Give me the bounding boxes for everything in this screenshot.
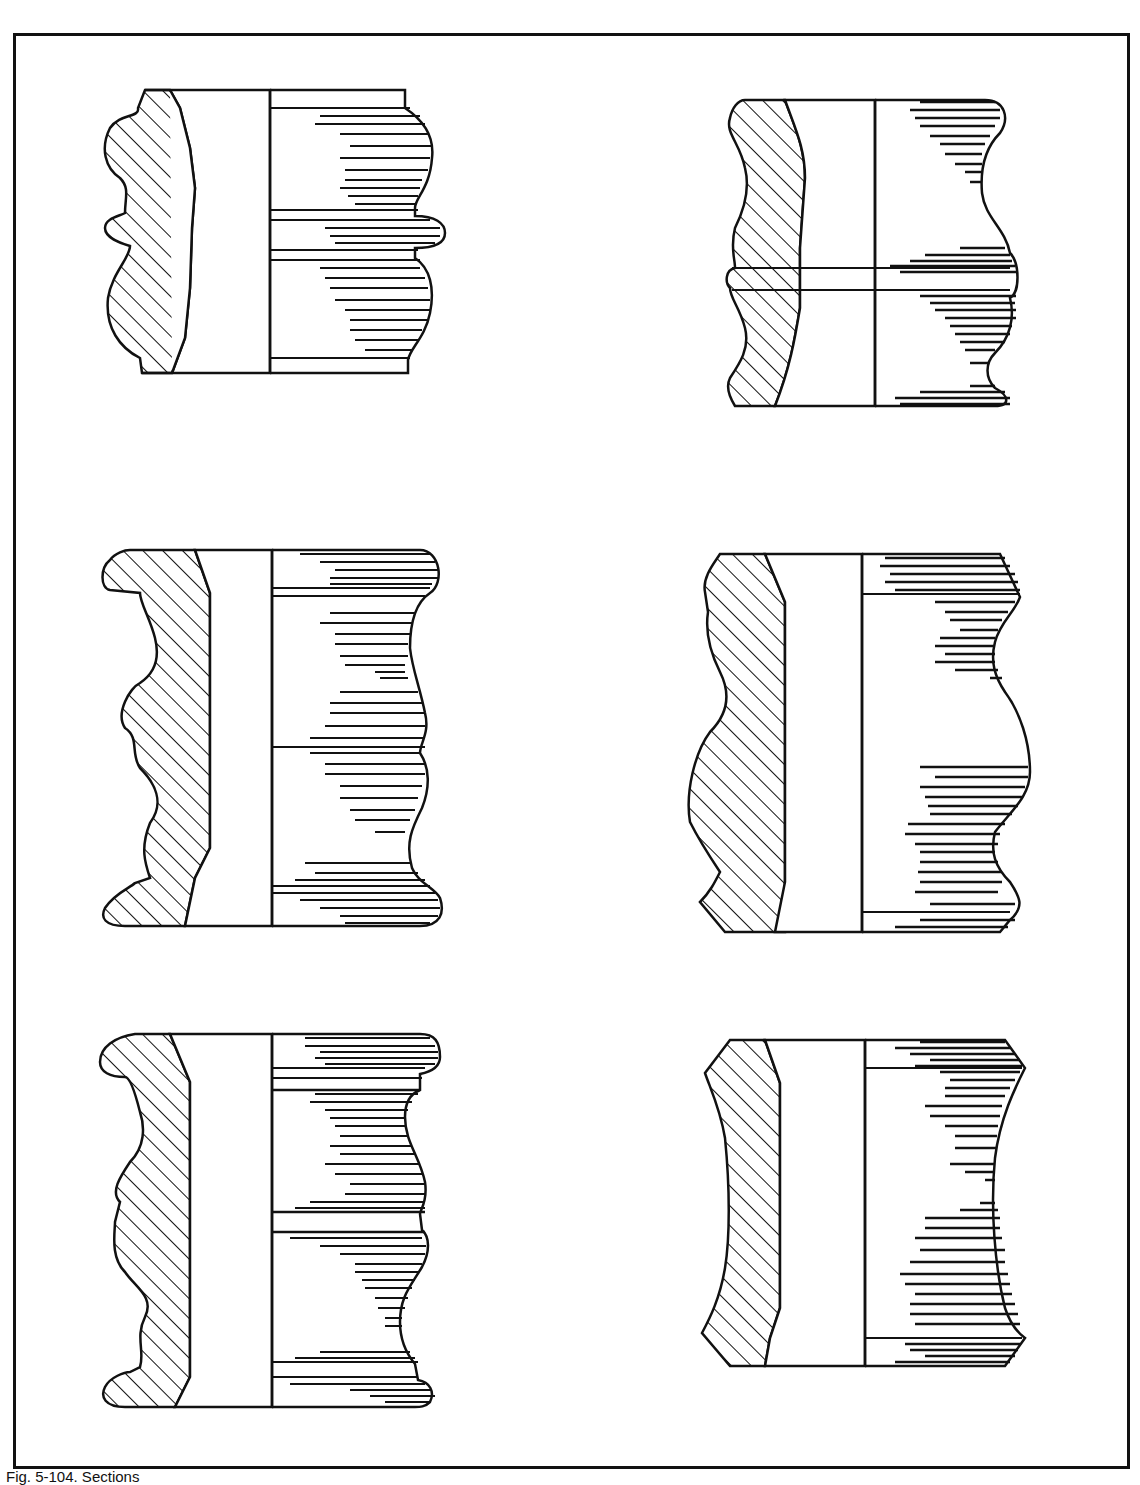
- section-drawing-top-right: [720, 98, 1030, 418]
- turned-section-2-icon: [720, 98, 1030, 418]
- turned-section-6-icon: [700, 1038, 1040, 1373]
- turned-section-5-icon: [100, 1032, 450, 1417]
- turned-section-3-icon: [100, 548, 450, 933]
- section-drawing-top-left: [100, 88, 450, 388]
- section-drawing-bottom-right: [700, 1038, 1040, 1373]
- section-drawing-middle-left: [100, 548, 450, 933]
- figure-caption: Fig. 5-104. Sections: [6, 1469, 139, 1485]
- section-drawing-bottom-left: [100, 1032, 450, 1417]
- turned-section-4-icon: [690, 552, 1035, 942]
- turned-section-1-icon: [100, 88, 450, 388]
- section-drawing-middle-right: [690, 552, 1035, 942]
